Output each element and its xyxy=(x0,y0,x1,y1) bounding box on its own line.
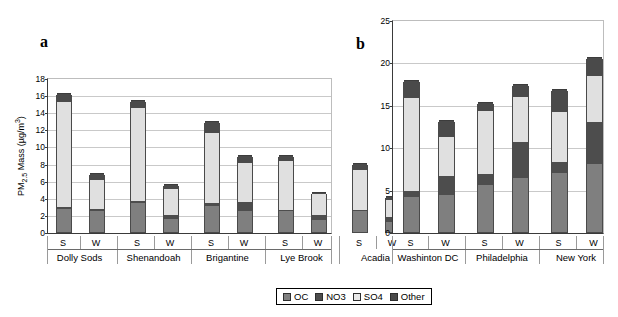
bar-segment-oc xyxy=(587,164,602,232)
bar-segment-so4 xyxy=(552,111,567,162)
bar-segment-oc xyxy=(478,185,493,232)
gridline xyxy=(48,147,331,148)
x-axis-season-label: W xyxy=(515,238,524,248)
legend-item: SO4 xyxy=(353,291,383,302)
x-axis-band-edge xyxy=(603,236,604,264)
legend-item: NO3 xyxy=(315,291,346,302)
bar-segment-oc xyxy=(164,219,178,232)
y-axis-tick-label: 10 xyxy=(36,142,45,152)
bar-segment-so4 xyxy=(478,110,493,174)
bar-segment-other xyxy=(90,173,104,180)
panel-a-plot-area: 024681012141618 xyxy=(47,78,332,234)
x-axis-season-label: S xyxy=(134,238,140,248)
stacked-bar xyxy=(477,104,494,233)
bar-segment-so4 xyxy=(404,97,419,191)
legend-swatch-so4 xyxy=(353,293,361,301)
bar-segment-no3 xyxy=(404,190,419,197)
gridline xyxy=(393,106,603,107)
bar-segment-oc xyxy=(57,209,71,232)
x-axis-season-label: W xyxy=(589,238,598,248)
gridline xyxy=(393,63,603,64)
stacked-bar xyxy=(438,122,455,233)
stacked-bar xyxy=(56,95,72,233)
legend-swatch-no3 xyxy=(315,293,323,301)
y-axis-tick-label: 20 xyxy=(381,58,390,68)
x-axis-tick-separator xyxy=(428,236,429,249)
y-axis-tick-label: 15 xyxy=(381,101,390,111)
legend-swatch-other xyxy=(390,293,398,301)
bar-segment-other xyxy=(513,84,528,97)
x-axis-band-edge xyxy=(392,236,393,264)
bar-segment-so4 xyxy=(513,96,528,142)
gridline xyxy=(48,96,331,97)
x-axis-rule xyxy=(392,249,604,250)
gridline xyxy=(48,130,331,131)
legend-label: SO4 xyxy=(364,291,383,302)
bar-segment-no3 xyxy=(478,173,493,185)
stacked-bar xyxy=(237,157,253,233)
y-axis-tick-label: 10 xyxy=(381,143,390,153)
bar-segment-so4 xyxy=(131,107,145,201)
x-axis-season-label: W xyxy=(314,238,323,248)
x-axis-group-separator xyxy=(265,236,266,264)
y-axis-tick-mark xyxy=(45,216,48,217)
x-axis-season-label: S xyxy=(555,238,561,248)
bar-segment-other xyxy=(312,192,326,195)
legend-label: NO3 xyxy=(326,291,346,302)
x-axis-tick-separator xyxy=(502,236,503,249)
panel-a-y-axis-title: PM2.5 Mass (µg/m3) xyxy=(14,116,28,196)
bar-segment-oc xyxy=(404,197,419,232)
x-axis-season-label: W xyxy=(441,238,450,248)
bar-segment-other xyxy=(238,155,252,163)
stacked-bar xyxy=(130,102,146,233)
x-axis-group-label: Lye Brook xyxy=(280,252,322,263)
figure-canvas: a PM2.5 Mass (µg/m3) 024681012141618 SWS… xyxy=(0,0,618,317)
y-axis-tick-label: 25 xyxy=(381,16,390,26)
bar-segment-oc xyxy=(238,211,252,232)
bar-segment-other xyxy=(205,121,219,133)
y-axis-tick-mark xyxy=(390,191,393,192)
x-axis-season-label: W xyxy=(92,238,101,248)
bar-segment-other xyxy=(552,89,567,112)
x-axis-tick-separator xyxy=(228,236,229,249)
x-axis-group-label: Dolly Sods xyxy=(57,252,102,263)
y-axis-tick-mark xyxy=(45,165,48,166)
y-axis-tick-mark xyxy=(45,130,48,131)
panel-a-x-axis: SWSWSWSWSWDolly SodsShenandoahBrigantine… xyxy=(47,234,332,280)
bar-segment-no3 xyxy=(587,121,602,164)
bar-segment-oc xyxy=(279,211,293,232)
bar-segment-oc xyxy=(552,173,567,232)
y-axis-tick-mark xyxy=(45,113,48,114)
bar-segment-oc xyxy=(205,206,219,232)
bar-segment-so4 xyxy=(279,160,293,210)
bar-segment-no3 xyxy=(552,161,567,173)
gridline xyxy=(393,148,603,149)
bar-segment-other xyxy=(131,100,145,108)
stacked-bar xyxy=(89,175,105,233)
x-axis-season-label: S xyxy=(208,238,214,248)
y-axis-tick-mark xyxy=(45,96,48,97)
y-axis-tick-label: 18 xyxy=(36,74,45,84)
bar-segment-other xyxy=(57,93,71,102)
stacked-bar xyxy=(586,59,603,233)
x-axis-group-separator xyxy=(191,236,192,264)
x-axis-season-label: S xyxy=(60,238,66,248)
x-axis-tick-separator xyxy=(80,236,81,249)
gridline xyxy=(48,113,331,114)
x-axis-season-label: W xyxy=(166,238,175,248)
x-axis-group-separator xyxy=(117,236,118,264)
bar-segment-so4 xyxy=(238,162,252,202)
x-axis-rule xyxy=(47,249,332,250)
y-axis-tick-label: 16 xyxy=(36,91,45,101)
x-axis-group-label: Philadelphia xyxy=(476,252,528,263)
bar-segment-so4 xyxy=(90,179,104,209)
stacked-bar xyxy=(278,157,294,233)
y-axis-tick-label: 12 xyxy=(36,125,45,135)
y-axis-tick-label: 14 xyxy=(36,108,45,118)
y-axis-tick-mark xyxy=(390,148,393,149)
x-axis-tick-separator xyxy=(576,236,577,249)
bar-segment-no3 xyxy=(238,201,252,211)
panel-b-letter: b xyxy=(356,36,365,52)
bar-segment-other xyxy=(478,102,493,111)
bar-segment-other xyxy=(439,120,454,137)
